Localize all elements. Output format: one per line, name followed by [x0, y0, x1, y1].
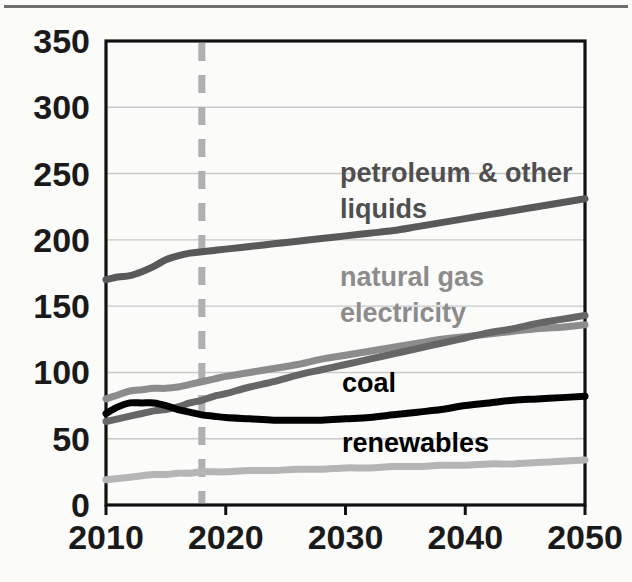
- series-line-coal: [106, 396, 585, 420]
- y-tick-label: 50: [52, 420, 90, 458]
- x-axis-tick-labels: 20102020203020402050: [68, 518, 623, 556]
- chart-figure: 050100150200250300350 201020202030204020…: [0, 0, 632, 582]
- x-tick-label: 2040: [427, 518, 503, 556]
- x-tick-label: 2020: [188, 518, 264, 556]
- series-label-renewables: renewables: [342, 428, 489, 458]
- series-inline-labels: petroleum & otherliquidsnatural gaselect…: [340, 158, 573, 458]
- series-label-petroleum-line2: liquids: [340, 194, 427, 224]
- x-tick-label: 2030: [308, 518, 384, 556]
- y-tick-label: 100: [33, 353, 90, 391]
- x-tick-label: 2050: [547, 518, 623, 556]
- series-label-petroleum-line1: petroleum & other: [340, 158, 573, 188]
- y-tick-label: 150: [33, 287, 90, 325]
- line-chart-canvas: 050100150200250300350 201020202030204020…: [0, 0, 632, 582]
- series-label-electricity: electricity: [340, 298, 466, 328]
- series-label-coal: coal: [342, 368, 396, 398]
- x-tick-label: 2010: [68, 518, 144, 556]
- y-axis-tick-labels: 050100150200250300350: [33, 22, 90, 524]
- y-tick-label: 250: [33, 155, 90, 193]
- y-tick-label: 200: [33, 221, 90, 259]
- y-tick-label: 300: [33, 88, 90, 126]
- series-label-natural-gas: natural gas: [340, 262, 484, 292]
- y-tick-label: 350: [33, 22, 90, 60]
- series-line-renewables: [106, 460, 585, 480]
